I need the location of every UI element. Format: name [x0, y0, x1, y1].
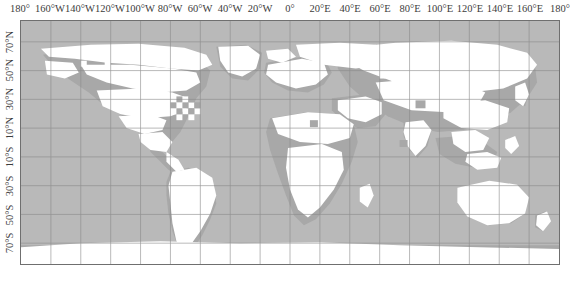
longitude-tick-label: 40°E — [339, 2, 360, 16]
longitude-tick-label: 180° — [550, 2, 570, 16]
latitude-tick-label: 50°S — [4, 204, 16, 225]
map-plot-area — [20, 20, 560, 265]
longitude-tick-label: 160°W — [35, 2, 65, 16]
latitude-tick-label: 30°N — [4, 88, 16, 110]
latitude-tick-label: 10°N — [4, 117, 16, 139]
longitude-tick-label: 0° — [285, 2, 294, 16]
longitude-tick-label: 80°W — [158, 2, 183, 16]
latitude-tick-label: 30°S — [4, 175, 16, 196]
longitude-tick-label: 20°W — [248, 2, 273, 16]
longitude-tick-label: 100°E — [427, 2, 453, 16]
longitude-tick-label: 120°E — [457, 2, 483, 16]
latitude-tick-label: 50°N — [4, 59, 16, 81]
longitude-axis: 180°160°W140°W120°W100°W80°W60°W40°W20°W… — [0, 0, 577, 20]
figure-caption — [0, 278, 577, 290]
world-map-figure: 180°160°W140°W120°W100°W80°W60°W40°W20°W… — [0, 0, 577, 290]
longitude-tick-label: 100°W — [125, 2, 155, 16]
longitude-tick-label: 140°W — [65, 2, 95, 16]
latitude-tick-label: 10°S — [4, 147, 16, 168]
longitude-tick-label: 140°E — [487, 2, 513, 16]
longitude-tick-label: 120°W — [95, 2, 125, 16]
world-map-graphic — [21, 21, 559, 264]
latitude-tick-label: 70°N — [4, 30, 16, 52]
longitude-tick-label: 20°E — [309, 2, 330, 16]
longitude-tick-label: 60°W — [188, 2, 213, 16]
latitude-tick-label: 70°S — [4, 233, 16, 254]
latitude-axis: 70°N50°N30°N10°N10°S30°S50°S70°S — [0, 0, 20, 290]
longitude-tick-label: 80°E — [399, 2, 420, 16]
longitude-tick-label: 60°E — [369, 2, 390, 16]
longitude-tick-label: 40°W — [218, 2, 243, 16]
longitude-tick-label: 160°E — [517, 2, 543, 16]
